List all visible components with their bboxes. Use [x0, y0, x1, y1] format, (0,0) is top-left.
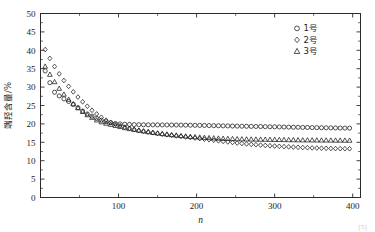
data-point [235, 141, 239, 146]
data-point [273, 144, 277, 149]
data-point [249, 137, 254, 141]
data-point [221, 139, 225, 144]
data-point [146, 123, 150, 127]
data-point [85, 104, 89, 109]
x-tick-label: 400 [346, 201, 360, 211]
data-point [249, 124, 253, 128]
data-point [132, 123, 136, 127]
data-point [188, 123, 192, 127]
series-2号 [43, 47, 351, 151]
series-1号 [43, 69, 351, 130]
legend-label-2号: 2号 [304, 35, 318, 45]
data-point [221, 136, 226, 140]
data-point [249, 142, 253, 147]
data-point [212, 124, 216, 128]
data-point [305, 145, 309, 150]
data-point [319, 146, 323, 151]
data-point [273, 125, 277, 129]
data-point [291, 137, 296, 141]
data-point [174, 123, 178, 127]
data-point [188, 135, 192, 140]
data-point [52, 90, 56, 94]
data-point [268, 137, 273, 141]
data-point [296, 125, 300, 129]
data-point [48, 81, 52, 85]
data-point [67, 84, 71, 89]
data-point [268, 125, 272, 129]
y-axis-title: 端羟含量/% [3, 82, 13, 129]
data-point [197, 135, 202, 139]
data-point [301, 125, 305, 129]
data-point [184, 123, 188, 127]
y-tick-label: 5 [31, 174, 36, 184]
data-point [291, 145, 295, 150]
data-point [198, 123, 202, 127]
data-point [291, 125, 295, 129]
y-tick-label: 20 [27, 119, 37, 129]
y-tick-label: 25 [27, 101, 37, 111]
chart-legend: 1号2号3号 [294, 23, 318, 56]
data-point [57, 86, 62, 90]
data-point [71, 90, 75, 95]
data-point [52, 79, 57, 83]
data-point [328, 138, 333, 142]
y-tick-label: 35 [27, 64, 37, 74]
data-point [221, 124, 225, 128]
data-point [230, 124, 234, 128]
data-point [287, 145, 291, 150]
data-point [193, 123, 197, 127]
data-point [314, 138, 319, 142]
data-point [315, 126, 319, 130]
legend-marker-2号 [295, 37, 300, 43]
data-point [333, 138, 338, 142]
legend-label-3号: 3号 [304, 46, 318, 56]
data-point [62, 97, 66, 101]
data-point [310, 126, 314, 130]
data-point [329, 126, 333, 130]
data-point [305, 138, 310, 142]
data-point [193, 134, 198, 138]
data-point [259, 143, 263, 148]
data-point [179, 123, 183, 127]
x-tick-label: 300 [268, 201, 282, 211]
data-point [319, 138, 324, 142]
data-point [348, 126, 352, 130]
data-point [240, 141, 244, 146]
data-point [343, 126, 347, 130]
data-point [254, 124, 258, 128]
legend-marker-3号 [294, 48, 300, 53]
data-point [43, 69, 47, 73]
data-point [226, 124, 230, 128]
data-point [338, 146, 342, 151]
data-point [272, 137, 277, 141]
data-point [310, 146, 314, 151]
data-point [258, 137, 263, 141]
data-point [48, 72, 53, 76]
citation-marker: [5] [358, 223, 367, 231]
data-point [343, 146, 347, 151]
data-point [347, 138, 352, 142]
data-point [263, 143, 267, 148]
data-point [43, 47, 47, 52]
data-point [277, 144, 281, 149]
figure-container: 1号2号3号 05101520253035404550100200300400n… [0, 0, 375, 232]
data-point [170, 123, 174, 127]
data-point [329, 146, 333, 151]
data-point [287, 125, 291, 129]
data-point [324, 146, 328, 151]
data-point [338, 138, 343, 142]
data-point [141, 123, 145, 127]
data-point [43, 64, 48, 68]
data-point [48, 56, 52, 61]
data-point [76, 95, 80, 100]
data-point [240, 137, 245, 141]
x-tick-label: 100 [112, 201, 126, 211]
data-point [282, 144, 286, 149]
data-point [305, 125, 309, 129]
data-point [244, 137, 249, 141]
y-tick-label: 15 [27, 138, 37, 148]
data-point [259, 124, 263, 128]
data-point [95, 112, 99, 117]
data-point [338, 126, 342, 130]
data-point [183, 134, 188, 138]
